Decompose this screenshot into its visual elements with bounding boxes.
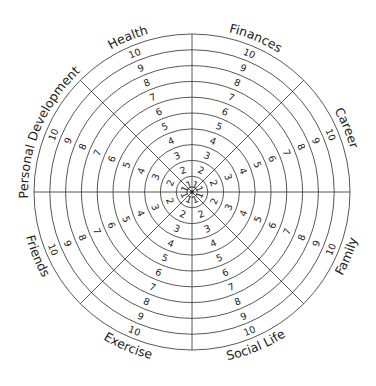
scale-number: 5 <box>214 120 224 132</box>
segment-title-family: Family <box>332 235 361 278</box>
scale-number: 6 <box>266 154 278 164</box>
scale-number: 10 <box>242 46 257 61</box>
scale-number: 6 <box>154 266 164 278</box>
scale-number: 4 <box>166 237 176 249</box>
scale-number: 4 <box>237 208 249 218</box>
scale-number: 3 <box>222 202 234 212</box>
scale-number: 5 <box>214 251 224 263</box>
scale-number: 3 <box>202 222 212 234</box>
scale-number: 3 <box>202 149 212 161</box>
scale-number: 6 <box>266 220 278 230</box>
scale-number: 7 <box>226 281 236 293</box>
scale-number: 5 <box>120 214 132 224</box>
scale-number: 9 <box>238 310 248 322</box>
scale-number: 9 <box>136 310 146 322</box>
scale-number: 5 <box>160 120 170 132</box>
scale-number: 8 <box>295 232 307 242</box>
scale-number: 3 <box>149 202 161 212</box>
scale-number: 6 <box>105 154 117 164</box>
scale-number: 4 <box>135 208 147 218</box>
scale-number: 2 <box>178 164 188 176</box>
scale-number: 9 <box>238 62 248 74</box>
scale-number: 2 <box>164 178 176 188</box>
scale-number: 3 <box>172 222 182 234</box>
spokes <box>34 34 350 350</box>
scale-number: 4 <box>166 135 176 147</box>
scale-number: 8 <box>76 232 88 242</box>
scale-number: 4 <box>135 166 147 176</box>
scale-number: 6 <box>220 266 230 278</box>
scale-number: 5 <box>251 214 263 224</box>
scale-number: 8 <box>232 76 242 88</box>
scale-number: 6 <box>220 105 230 117</box>
scale-number: 2 <box>208 178 220 188</box>
segment-title-friends: Friends <box>23 233 54 279</box>
scale-number: 5 <box>251 160 263 170</box>
scale-number: 3 <box>222 172 234 182</box>
scale-number: 3 <box>149 172 161 182</box>
scale-number: 8 <box>232 295 242 307</box>
scale-number: 9 <box>62 238 74 248</box>
scale-number: 2 <box>208 196 220 206</box>
scale-number: 5 <box>160 251 170 263</box>
scale-number: 9 <box>62 136 74 146</box>
scale-number: 5 <box>120 160 132 170</box>
scale-number: 8 <box>76 142 88 152</box>
scale-number: 10 <box>46 242 61 257</box>
scale-number: 9 <box>136 62 146 74</box>
scale-number: 2 <box>196 208 206 220</box>
scale-number: 10 <box>127 46 142 61</box>
scale-number: 8 <box>295 142 307 152</box>
scale-number: 6 <box>105 220 117 230</box>
wheel-of-life-diagram: 1234567891012345678910123456789101234567… <box>0 0 376 386</box>
scale-number: 7 <box>226 91 236 103</box>
scale-number: 9 <box>310 238 322 248</box>
scale-number: 10 <box>242 323 257 338</box>
scale-number: 7 <box>281 226 293 236</box>
scale-number: 10 <box>127 323 142 338</box>
scale-number: 10 <box>323 242 338 257</box>
scale-number: 2 <box>178 208 188 220</box>
scale-number: 7 <box>91 226 103 236</box>
scale-number: 8 <box>142 76 152 88</box>
scale-number: 8 <box>142 295 152 307</box>
scale-number: 10 <box>323 127 338 142</box>
scale-number: 2 <box>164 196 176 206</box>
scale-number: 4 <box>208 135 218 147</box>
scale-number: 7 <box>91 148 103 158</box>
scale-number: 6 <box>154 105 164 117</box>
scale-number: 2 <box>196 164 206 176</box>
scale-number: 4 <box>208 237 218 249</box>
scale-number: 3 <box>172 149 182 161</box>
scale-number: 4 <box>237 166 249 176</box>
scale-number: 7 <box>148 91 158 103</box>
scale-number: 7 <box>281 148 293 158</box>
scale-number: 9 <box>310 136 322 146</box>
scale-number: 10 <box>46 127 61 142</box>
scale-number: 7 <box>148 281 158 293</box>
